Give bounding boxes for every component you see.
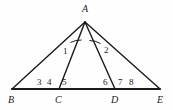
geometry-canvas (0, 0, 173, 110)
vertex-label-E: E (157, 95, 163, 105)
angle-label-2: 2 (104, 46, 109, 55)
vertex-label-B: B (8, 95, 14, 105)
vertex-label-D: D (111, 95, 118, 105)
vertex-label-C: C (55, 95, 62, 105)
angle-arcs (71, 40, 101, 44)
base-label-7: 7 (118, 78, 123, 87)
segment-AD (85, 22, 115, 89)
angle-label-1: 1 (63, 47, 68, 56)
geometry-figure: A B C D E 1 2 3 4 5 6 7 8 (0, 0, 173, 110)
base-label-6: 6 (103, 78, 108, 87)
base-label-5: 5 (62, 78, 67, 87)
vertex-label-A: A (82, 4, 88, 14)
base-label-3: 3 (37, 78, 42, 87)
base-label-4: 4 (47, 78, 52, 87)
angle-1-arc (71, 40, 82, 43)
base-label-8: 8 (129, 78, 134, 87)
cevian-lines (12, 22, 160, 89)
